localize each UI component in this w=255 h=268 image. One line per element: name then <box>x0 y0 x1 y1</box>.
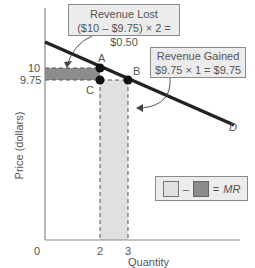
legend-mr: MR <box>223 182 240 196</box>
tick-y-10: 10 <box>28 63 40 74</box>
point-b <box>124 76 133 85</box>
y-axis-label: Price (dollars) <box>14 101 25 191</box>
revenue-lost-box: Revenue Lost ($10 – $9.75) × 2 = $0.50 <box>68 4 180 36</box>
legend-minus: – <box>183 182 189 196</box>
legend-dark-swatch <box>193 181 209 197</box>
point-a <box>96 64 105 73</box>
revenue-gained-box: Revenue Gained $9.75 × 1 = $9.75 <box>150 47 246 78</box>
x-axis-label: Quantity <box>128 257 169 268</box>
point-c <box>96 76 105 85</box>
revenue-gained-region <box>100 80 128 240</box>
revenue-gained-formula: $9.75 × 1 = $9.75 <box>151 63 245 77</box>
label-b: B <box>133 66 140 77</box>
gained-arrow <box>142 78 170 108</box>
revenue-lost-region <box>45 68 100 80</box>
label-a: A <box>98 53 105 64</box>
tick-origin: 0 <box>34 246 40 257</box>
revenue-gained-title: Revenue Gained <box>151 49 245 63</box>
revenue-lost-title: Revenue Lost <box>69 7 179 21</box>
label-c: C <box>86 85 94 96</box>
tick-x-2: 2 <box>97 246 103 257</box>
legend-light-swatch <box>163 181 179 197</box>
tick-y-975: 9.75 <box>20 75 41 86</box>
label-d: D <box>229 122 237 133</box>
revenue-lost-formula: ($10 – $9.75) × 2 = $0.50 <box>69 21 179 49</box>
legend-equals: = <box>213 182 219 196</box>
mr-legend: – = MR <box>155 176 248 201</box>
